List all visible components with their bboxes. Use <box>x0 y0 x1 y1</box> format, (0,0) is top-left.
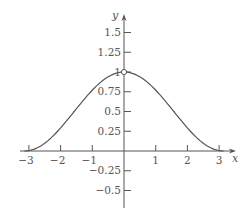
open-circle-icon <box>121 69 126 74</box>
y-tick-label: 1.25 <box>98 46 121 58</box>
x-tick-label: −2 <box>50 154 65 166</box>
y-tick-label: 0.5 <box>104 105 121 117</box>
x-tick-label: −3 <box>18 154 33 166</box>
y-axis-label: y <box>111 9 119 22</box>
y-tick-label: −0.5 <box>96 184 122 196</box>
y-tick-label: −0.25 <box>89 164 121 176</box>
y-tick-label: 1 <box>114 66 121 78</box>
x-tick-label: 3 <box>216 154 223 166</box>
y-tick-label: 0.25 <box>98 125 121 137</box>
open-circle-marker <box>121 69 126 74</box>
y-tick-label: 0.75 <box>98 85 121 97</box>
chart-canvas: −3−2−1123 1.51.2510.750.50.25−0.25−0.5 x… <box>0 0 248 221</box>
x-axis-label: x <box>232 152 239 165</box>
x-tick-label: 2 <box>184 154 191 166</box>
x-axis-ticks: −3−2−1123 <box>18 145 222 166</box>
y-axis-ticks: 1.51.2510.750.50.25−0.25−0.5 <box>89 26 131 196</box>
x-axis <box>20 149 236 154</box>
x-tick-label: 1 <box>152 154 159 166</box>
y-tick-label: 1.5 <box>104 26 121 38</box>
